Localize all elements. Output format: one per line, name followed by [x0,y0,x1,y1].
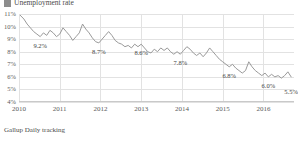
x-tick-2011: 2011 [53,106,67,113]
data-label-87: 8.7% [92,49,106,56]
data-label-86: 8.6% [134,50,148,57]
y-tick-10%: 10% [4,23,16,30]
y-tick-5%: 5% [7,86,16,93]
unemployment-rate-chart: Unemployment rate 11%10%9%8%7%6%5%4% 201… [0,0,298,142]
series-unemployment-rate [19,14,294,102]
legend-swatch-unemployment-rate [4,0,11,7]
x-tick-2012: 2012 [93,106,107,113]
y-tick-8%: 8% [7,48,16,55]
chart-legend: Unemployment rate [4,0,74,8]
y-tick-11%: 11% [4,11,16,18]
series-line-path [20,15,291,78]
y-tick-9%: 9% [7,36,16,43]
x-tick-2014: 2014 [175,106,189,113]
gridline-y-4% [19,102,294,103]
x-tick-2016: 2016 [256,106,270,113]
data-label-55: 5.5% [284,89,298,96]
y-tick-7%: 7% [7,61,16,68]
x-tick-2013: 2013 [134,106,148,113]
data-label-60: 6.0% [262,83,276,90]
data-label-68: 6.8% [222,73,236,80]
x-tick-2015: 2015 [216,106,230,113]
x-tick-2010: 2010 [12,106,26,113]
data-label-92: 9.2% [33,42,47,49]
source-note: Gallup Daily tracking [4,126,65,134]
plot-area: 11%10%9%8%7%6%5%4% 201020112012201320142… [19,14,294,102]
legend-label-unemployment-rate: Unemployment rate [14,0,74,7]
data-label-78: 7.8% [174,60,188,67]
y-tick-6%: 6% [7,74,16,81]
